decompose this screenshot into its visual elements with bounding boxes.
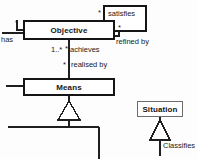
multiplicity-has: * — [15, 19, 18, 27]
association-label-classifies: Classifies — [163, 142, 195, 150]
multiplicity-achieves-star: * — [65, 45, 68, 53]
multiplicity-satisfies-source: * — [98, 9, 101, 17]
association-label-realised-by: realised by — [71, 61, 107, 69]
means-generalization-triangle — [58, 101, 80, 120]
association-label-has: has — [1, 36, 13, 44]
multiplicity-achieves-lower: 1..* — [51, 46, 62, 54]
class-box-means[interactable]: Means — [23, 78, 115, 96]
association-label-satisfies: satisfies — [108, 10, 135, 18]
refined-by-line — [115, 32, 119, 36]
situation-generalization-triangle — [150, 120, 170, 140]
uml-diagram-canvas: Objective Means Situation satisfies refi… — [0, 0, 197, 159]
class-box-situation[interactable]: Situation — [137, 101, 183, 117]
multiplicity-refined-by: * — [118, 24, 121, 32]
association-label-refined-by: refined by — [116, 38, 149, 46]
class-box-objective[interactable]: Objective — [23, 20, 115, 40]
association-label-achieves: achieves — [70, 46, 100, 54]
multiplicity-realised-by: * — [63, 61, 66, 69]
